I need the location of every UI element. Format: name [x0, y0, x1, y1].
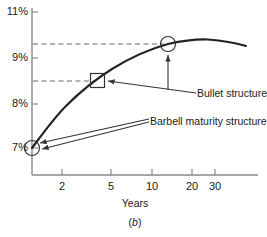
y-tick-label-7: 7%: [0, 141, 28, 153]
reference-lines: [33, 44, 164, 81]
y-axis-ticks: [32, 12, 38, 148]
callout-leader-lines: [40, 55, 196, 149]
caption-paren-close: ): [138, 216, 142, 228]
x-tick-label-10: 10: [140, 180, 164, 192]
data-point-markers: [25, 37, 176, 156]
x-tick-label-30: 30: [203, 180, 227, 192]
bullet-structure-label: Bullet structure: [197, 87, 267, 99]
y-tick-label-8: 8%: [0, 97, 28, 109]
x-tick-label-20: 20: [180, 180, 204, 192]
barbell-leader-line-lower: [42, 122, 149, 149]
yield-curve-figure: 11% 9% 8% 7% 2 5 10 20 30 Bullet structu…: [0, 0, 267, 237]
barbell-leader-line-upper: [40, 119, 149, 143]
y-tick-label-9: 9%: [0, 51, 28, 63]
figure-caption: (b): [105, 216, 165, 228]
barbell-maturity-structure-label: Barbell maturity structure: [150, 115, 267, 127]
x-axis-ticks: [62, 169, 215, 175]
x-tick-label-5: 5: [99, 180, 123, 192]
bullet-leader-line-horizontal: [108, 81, 196, 93]
x-axis-title: Years: [105, 197, 165, 209]
y-tick-label-11: 11%: [0, 5, 28, 17]
x-tick-label-2: 2: [50, 180, 74, 192]
